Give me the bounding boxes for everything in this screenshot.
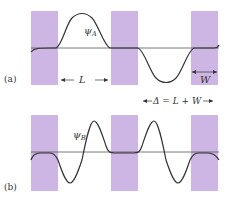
- W-label: W: [200, 74, 211, 85]
- period-label: Δ = L + W: [152, 96, 202, 106]
- panel-a-label: (a): [4, 74, 16, 84]
- panel-b: (b) ψB: [4, 115, 219, 192]
- L-label: L: [78, 74, 86, 85]
- panel-b-label: (b): [4, 182, 17, 192]
- psi-b-label: ψB: [73, 129, 86, 142]
- period-dimension: Δ = L + W: [143, 96, 213, 106]
- L-dimension: L: [61, 74, 108, 85]
- kronig-penney-diagram: (a) ψA L W Δ = L + W (b) ψB: [0, 0, 227, 202]
- psi-a-label: ψA: [84, 25, 97, 38]
- panel-a: (a) ψA L W: [4, 11, 219, 85]
